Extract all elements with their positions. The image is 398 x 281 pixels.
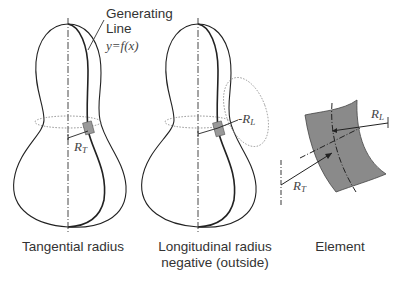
- caption-element-line1: Element: [305, 239, 375, 255]
- generating-line-word2: Line: [106, 21, 173, 36]
- caption-longitudinal-line2: negative (outside): [148, 255, 282, 271]
- rl-label-element: RL: [371, 106, 384, 122]
- rt-main: R: [74, 139, 82, 154]
- generating-line-word1: Generating: [106, 6, 173, 21]
- rt-label-element: RT: [293, 178, 306, 194]
- rt-sub-element: T: [301, 184, 306, 194]
- rl-sub-element: L: [379, 112, 384, 122]
- rt-main-element: R: [293, 178, 301, 193]
- generating-line-label: Generating Line: [106, 6, 173, 36]
- caption-tangential: Tangential radius: [18, 239, 128, 255]
- equation-label: y=f(x): [106, 38, 139, 54]
- rl-label-panel2: -RL: [238, 111, 255, 127]
- rl-sub: L: [250, 117, 255, 127]
- longitudinal-panel-shape: [142, 18, 277, 234]
- caption-longitudinal: Longitudinal radius negative (outside): [148, 239, 282, 271]
- caption-element: Element: [305, 239, 375, 255]
- rl-main-element: R: [371, 106, 379, 121]
- rt-label-panel1: RT: [74, 139, 87, 155]
- rt-sub: T: [82, 145, 87, 155]
- caption-longitudinal-line1: Longitudinal radius: [148, 239, 282, 255]
- caption-tangential-line1: Tangential radius: [18, 239, 128, 255]
